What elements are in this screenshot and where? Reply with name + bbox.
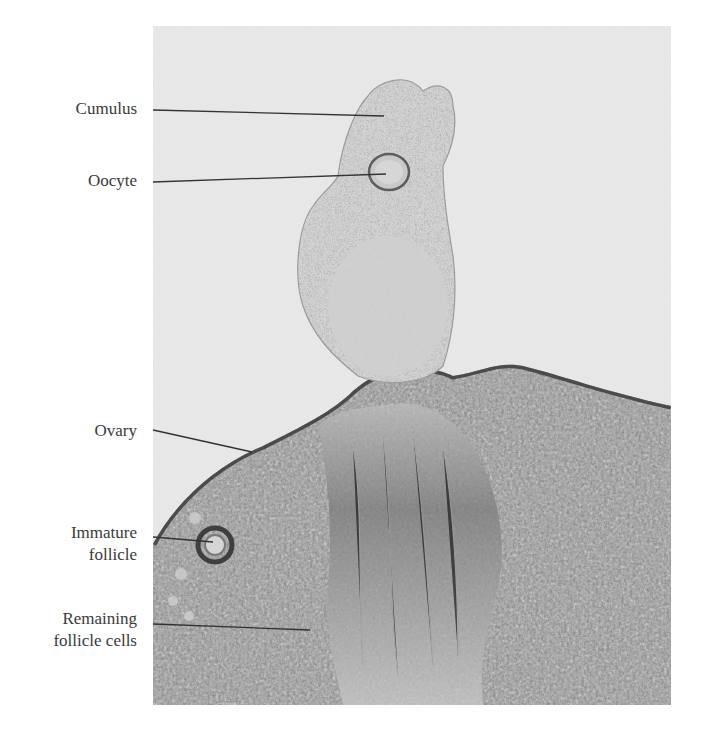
- label-immature-follicle-line1: Immature: [71, 522, 137, 544]
- micrograph-panel: [153, 26, 671, 705]
- label-oocyte-text: Oocyte: [88, 171, 137, 190]
- label-remaining-follicle-cells-line1: Remaining: [53, 608, 137, 630]
- label-ovary-text: Ovary: [95, 421, 137, 440]
- micrograph-image: [153, 26, 671, 705]
- label-cumulus: Cumulus: [76, 98, 137, 120]
- label-immature-follicle: Immature follicle: [71, 522, 137, 566]
- label-ovary: Ovary: [95, 420, 137, 442]
- label-remaining-follicle-cells: Remaining follicle cells: [53, 608, 137, 652]
- label-oocyte: Oocyte: [88, 170, 137, 192]
- label-remaining-follicle-cells-line2: follicle cells: [53, 630, 137, 652]
- label-cumulus-text: Cumulus: [76, 99, 137, 118]
- film-grain: [153, 26, 671, 705]
- label-immature-follicle-line2: follicle: [71, 544, 137, 566]
